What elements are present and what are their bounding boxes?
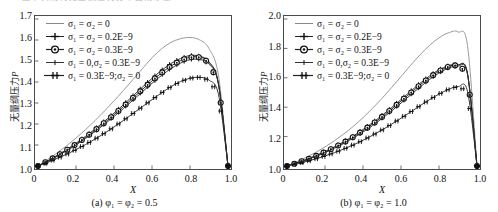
legend-label-b-2: σ₁ = σ₂ = 0.3E−9: [315, 45, 382, 55]
cutoff-text: 图中实线为无量纲压力分布曲线示意: [22, 0, 172, 2]
legend-label-b-1: σ₁ = σ₂ = 0.2E−9: [315, 32, 382, 42]
legend-row-b-3: σ₁ = 0,σ₂ = 0.3E−9: [293, 56, 389, 69]
x-tick-b-0: 0: [273, 173, 293, 184]
y-tick-b-4: 1.8: [259, 41, 281, 52]
y-tick-a-4: 1.4: [10, 76, 32, 87]
x-axis-title-b: X: [352, 184, 412, 195]
x-tick-b-4: 0.8: [430, 173, 450, 184]
y-tick-a-7: 1.7: [10, 10, 32, 21]
x-tick-a-5: 1.0: [221, 173, 241, 184]
legend-marker-none-icon: [44, 17, 66, 30]
legend-marker-circle-icon: [44, 43, 66, 56]
y-tick-a-1: 1.1: [10, 142, 32, 153]
legend-row-a-2: σ₁ = σ₂ = 0.3E−9: [44, 43, 140, 56]
legend-row-b-0: σ₁ = σ₂ = 0: [293, 17, 389, 30]
legend-label-a-1: σ₁ = σ₂ = 0.2E−9: [66, 32, 133, 42]
figure-container: 无量纲压力P 1.0 1.1 1.2 1.3 1.4 1.5 1.6 1.7 0…: [0, 7, 498, 212]
legend-row-a-0: σ₁ = σ₂ = 0: [44, 17, 140, 30]
legend-row-b-2: σ₁ = σ₂ = 0.3E−9: [293, 43, 389, 56]
panel-a: 无量纲压力P 1.0 1.1 1.2 1.3 1.4 1.5 1.6 1.7 0…: [0, 7, 249, 212]
x-tick-a-4: 0.8: [181, 173, 201, 184]
cutoff-text-strip: 图中实线为无量纲压力分布曲线示意: [0, 0, 498, 7]
legend-marker-none-icon: [293, 17, 315, 30]
y-tick-a-5: 1.5: [10, 54, 32, 65]
legend-row-b-1: σ₁ = σ₂ = 0.2E−9: [293, 30, 389, 43]
legend-b: σ₁ = σ₂ = 0 σ₁ = σ₂ = 0.2E−9 σ₁ = σ₂ = 0…: [293, 17, 389, 82]
legend-row-a-3: σ₁ = 0,σ₂ = 0.3E−9: [44, 56, 140, 69]
x-tick-b-2: 0.4: [351, 173, 371, 184]
legend-marker-tick-icon: [293, 56, 315, 69]
x-axis-title-a: X: [103, 184, 163, 195]
legend-marker-plus-icon: [293, 30, 315, 43]
legend-label-b-0: σ₁ = σ₂ = 0: [315, 19, 359, 29]
x-tick-a-1: 0.2: [63, 173, 83, 184]
legend-marker-circle-icon: [293, 43, 315, 56]
legend-label-a-3: σ₁ = 0,σ₂ = 0.3E−9: [66, 58, 140, 68]
y-axis-label-text-b: 无量纲压力: [259, 77, 269, 122]
legend-marker-star-icon: [44, 69, 66, 82]
legend-row-b-4: σ₁ = 0.3E−9;σ₂ = 0: [293, 69, 389, 82]
y-tick-b-2: 1.4: [259, 102, 281, 113]
legend-marker-tick-icon: [44, 56, 66, 69]
y-tick-a-3: 1.3: [10, 98, 32, 109]
y-tick-b-3: 1.6: [259, 71, 281, 82]
y-tick-a-2: 1.2: [10, 120, 32, 131]
x-tick-a-2: 0.4: [102, 173, 122, 184]
legend-label-a-0: σ₁ = σ₂ = 0: [66, 19, 110, 29]
y-tick-a-6: 1.6: [10, 32, 32, 43]
x-tick-b-1: 0.2: [312, 173, 332, 184]
panel-b: 无量纲压力P 1.0 1.2 1.4 1.6 1.8 2.0 0 0.2 0.4…: [249, 7, 498, 212]
x-tick-a-0: 0: [24, 173, 44, 184]
legend-a: σ₁ = σ₂ = 0 σ₁ = σ₂ = 0.2E−9 σ₁ = σ₂ = 0…: [44, 17, 140, 82]
x-tick-a-3: 0.6: [142, 173, 162, 184]
y-tick-b-5: 2.0: [259, 10, 281, 21]
panel-caption-b: (b) φ₁ = φ₂ = 1.0: [249, 197, 498, 208]
legend-label-a-4: σ₁ = 0.3E−9;σ₂ = 0: [66, 71, 140, 81]
legend-row-a-1: σ₁ = σ₂ = 0.2E−9: [44, 30, 140, 43]
legend-label-a-2: σ₁ = σ₂ = 0.3E−9: [66, 45, 133, 55]
x-tick-b-3: 0.6: [391, 173, 411, 184]
x-tick-b-5: 1.0: [470, 173, 490, 184]
legend-row-a-4: σ₁ = 0.3E−9;σ₂ = 0: [44, 69, 140, 82]
legend-marker-star-icon: [293, 69, 315, 82]
panel-caption-a: (a) φ₁ = φ₂ = 0.5: [0, 197, 249, 208]
legend-label-b-4: σ₁ = 0.3E−9;σ₂ = 0: [315, 71, 389, 81]
y-tick-b-1: 1.2: [259, 133, 281, 144]
legend-label-b-3: σ₁ = 0,σ₂ = 0.3E−9: [315, 58, 389, 68]
legend-marker-plus-icon: [44, 30, 66, 43]
